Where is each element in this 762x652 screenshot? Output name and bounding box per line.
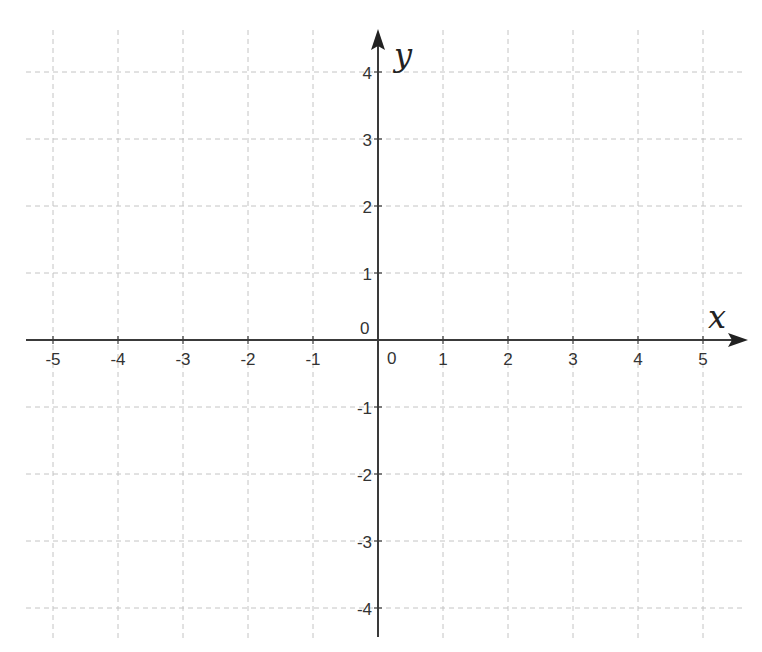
coordinate-plane: -5-4-3-2-112345 -4-3-2-11234 0 0 x y xyxy=(0,0,762,652)
tick-label-x: 4 xyxy=(633,350,642,369)
tick-label-y: -1 xyxy=(357,399,372,418)
tick-label-x: 1 xyxy=(438,350,447,369)
tick-label-y: 1 xyxy=(363,265,372,284)
tick-label-y: -2 xyxy=(357,466,372,485)
tick-label-x: 5 xyxy=(698,350,707,369)
tick-label-x: -5 xyxy=(45,350,60,369)
tick-label-x: 3 xyxy=(568,350,577,369)
tick-label-x: -4 xyxy=(110,350,125,369)
tick-label-y: 2 xyxy=(363,198,372,217)
tick-label-x: -2 xyxy=(240,350,255,369)
tick-label-y: -3 xyxy=(357,533,372,552)
tick-label-x: -1 xyxy=(305,350,320,369)
tick-label-y: 3 xyxy=(363,131,372,150)
tick-label-y: 4 xyxy=(363,64,372,83)
tick-label-x: 2 xyxy=(503,350,512,369)
tick-label-y: -4 xyxy=(357,600,372,619)
x-axis-label: x xyxy=(708,298,726,336)
tick-label-x: -3 xyxy=(175,350,190,369)
y-axis-label: y xyxy=(392,36,413,74)
origin-label-y: 0 xyxy=(360,319,369,338)
origin-label-x: 0 xyxy=(387,349,396,368)
